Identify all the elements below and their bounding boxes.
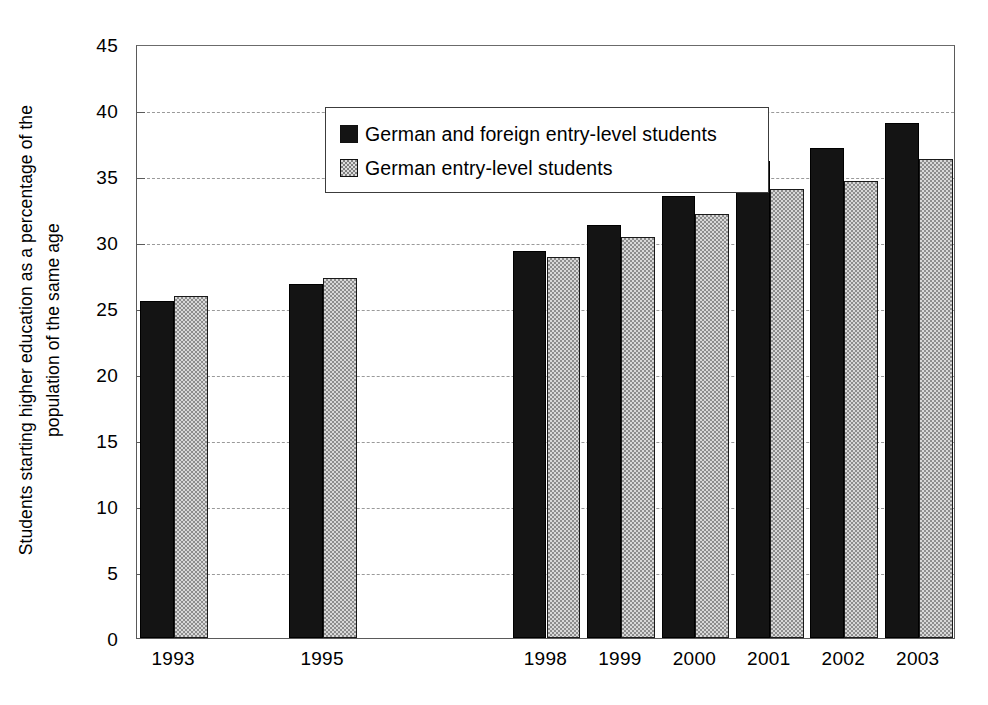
y-axis-title-line-1: Students starting higher education as a … [13,105,40,555]
y-tick-label-15: 15 [72,432,118,451]
bar-1998-series-1 [547,257,581,638]
y-tick-label-35: 35 [72,168,118,187]
bar-1999-series-0 [587,225,621,638]
chart-legend: German and foreign entry-level students … [325,107,769,193]
bar-2002-series-0 [810,148,844,638]
y-axis-tick-labels: 051015202530354045 [72,0,118,705]
legend-label-1: German entry-level students [365,157,613,180]
y-axis-title-line-2: population of the same age [40,105,67,555]
y-tick-label-30: 30 [72,234,118,253]
x-tick-label-1999: 1999 [583,648,657,670]
y-tick-label-10: 10 [72,498,118,517]
legend-item-0: German and foreign entry-level students [340,117,768,151]
y-tick-label-20: 20 [72,366,118,385]
bar-2000-series-1 [695,214,729,638]
bar-2001-series-1 [770,189,804,638]
legend-item-1: German entry-level students [340,151,768,185]
bar-1995-series-1 [323,278,357,638]
bar-1999-series-1 [621,237,655,638]
bar-1995-series-0 [289,284,323,638]
bar-2003-series-1 [919,159,953,638]
bar-1993-series-0 [140,301,174,638]
legend-swatch-icon-series-1 [340,159,358,177]
bar-2002-series-1 [844,181,878,638]
plot-area: German and foreign entry-level students … [136,45,955,639]
x-axis-tick-labels: 19931995199819992000200120022003 [136,648,955,682]
x-tick-label-2001: 2001 [732,648,806,670]
bar-2003-series-0 [885,123,919,638]
chart-figure: Students starting higher education as a … [0,0,988,705]
x-tick-label-1993: 1993 [136,648,210,670]
y-axis-title: Students starting higher education as a … [10,0,70,660]
bar-2001-series-0 [736,161,770,638]
bar-1993-series-1 [174,296,208,638]
x-tick-label-1998: 1998 [508,648,582,670]
y-tick-label-25: 25 [72,300,118,319]
y-tick-label-45: 45 [72,36,118,55]
x-tick-label-2000: 2000 [657,648,731,670]
y-tick-label-40: 40 [72,102,118,121]
bar-2000-series-0 [662,196,696,638]
x-tick-label-1995: 1995 [285,648,359,670]
legend-label-0: German and foreign entry-level students [365,123,717,146]
y-tick-label-5: 5 [72,564,118,583]
x-tick-label-2002: 2002 [806,648,880,670]
legend-swatch-icon-series-0 [340,125,358,143]
y-tick-label-0: 0 [72,630,118,649]
bar-1998-series-0 [513,251,547,638]
x-tick-label-2003: 2003 [881,648,955,670]
